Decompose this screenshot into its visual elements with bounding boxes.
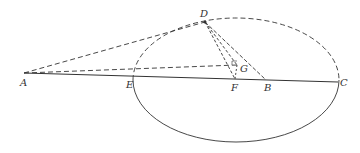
- label-E: E: [126, 80, 133, 90]
- line-DF: [205, 22, 235, 79]
- label-G: G: [240, 64, 248, 74]
- label-C: C: [340, 78, 348, 88]
- line-DG: [205, 22, 237, 65]
- label-D: D: [200, 9, 208, 19]
- diagram-canvas: [0, 0, 360, 153]
- line-DB: [205, 22, 266, 80]
- line-GF: [235, 65, 237, 79]
- label-A: A: [20, 78, 27, 88]
- geometry-diagram: A E F B C D G: [0, 0, 360, 153]
- line-AG: [24, 65, 237, 73]
- line-AC: [24, 73, 338, 82]
- line-AD: [24, 22, 205, 73]
- label-F: F: [231, 83, 238, 93]
- label-B: B: [264, 83, 271, 93]
- point-D-marker: [203, 20, 206, 23]
